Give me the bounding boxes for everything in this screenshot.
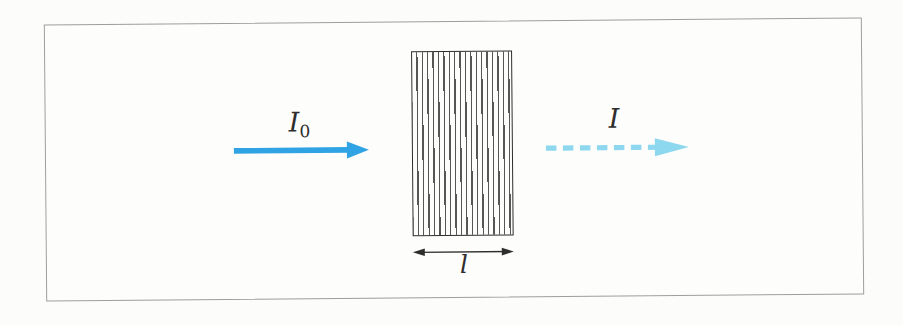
incident-arrow-shaft <box>234 150 349 151</box>
transmitted-arrow-head-icon <box>655 138 689 156</box>
dimension-arrow-left-head-icon <box>413 248 425 256</box>
incident-intensity-label-subscript: 0 <box>299 121 310 141</box>
transmitted-intensity-label: I <box>609 105 620 132</box>
incident-intensity-arrow <box>234 141 369 159</box>
dimension-arrow-right-head-icon <box>502 248 514 256</box>
thickness-label: l <box>451 252 477 277</box>
incident-arrow-head-icon <box>347 141 369 158</box>
figure-frame: I0 I l <box>44 17 864 301</box>
incident-intensity-label-base: I <box>289 106 300 137</box>
incident-intensity-label: I0 <box>289 108 311 140</box>
transmitted-intensity-arrow <box>546 138 689 157</box>
figure-page: I0 I l <box>0 0 903 325</box>
transmitted-arrow-shaft <box>546 147 656 148</box>
